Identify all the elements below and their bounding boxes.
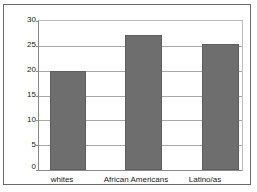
y-tick-mark-10 [36, 120, 39, 121]
bar-whites[interactable] [50, 71, 86, 170]
y-tick-mark-25 [36, 46, 39, 47]
y-tick-label-15: 15 [8, 91, 36, 99]
y-tick-label-0: 0 [8, 163, 36, 171]
chart-figure-frame: 30 25 20 15 10 5 0 whites African Americ… [3, 4, 251, 185]
y-tick-mark-5 [36, 145, 39, 146]
bar-african-americans[interactable] [125, 35, 162, 170]
y-tick-label-20: 20 [8, 66, 36, 74]
plot-area [38, 20, 243, 171]
y-tick-label-25: 25 [8, 41, 36, 49]
x-tick-label-african-americans: African Americans [87, 175, 185, 184]
y-tick-mark-30 [36, 21, 39, 22]
y-tick-mark-0 [36, 170, 39, 171]
x-tick-label-latino-as: Latino/as [172, 175, 238, 184]
y-tick-label-10: 10 [8, 116, 36, 124]
bar-latino-as[interactable] [202, 44, 239, 170]
y-tick-mark-20 [36, 71, 39, 72]
y-tick-label-30: 30 [8, 16, 36, 24]
y-axis: 30 25 20 15 10 5 0 [4, 5, 36, 186]
y-tick-label-5: 5 [8, 141, 36, 149]
y-tick-mark-15 [36, 96, 39, 97]
